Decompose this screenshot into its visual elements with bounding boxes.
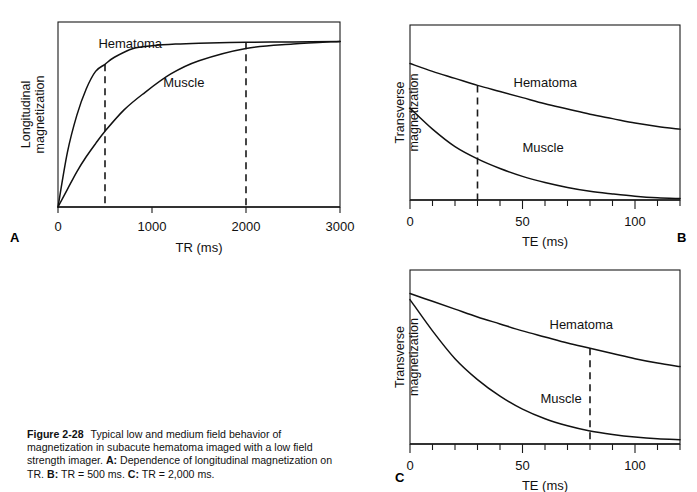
- x-axis-tick-label: 1000: [138, 219, 167, 234]
- y-axis-title-line: magnetization: [407, 318, 421, 396]
- panel-letter-a: A: [10, 230, 19, 245]
- y-axis-title: Transversemagnetization: [393, 74, 421, 152]
- y-axis-title-line: magnetization: [33, 76, 47, 154]
- curve-label-muscle: Muscle: [523, 140, 564, 155]
- y-axis-title-line: Transverse: [393, 326, 407, 388]
- x-axis-tick-label: 3000: [326, 219, 355, 234]
- curve-label-muscle: Muscle: [163, 75, 204, 90]
- chart-panel-c: 050100TE (ms)TransversemagnetizationHema…: [390, 248, 697, 492]
- chart-panel-a: 0100020003000TR (ms)Longitudinalmagnetiz…: [0, 0, 370, 250]
- chart-panel-b: 050100TE (ms)TransversemagnetizationHema…: [390, 0, 697, 250]
- x-axis-tick-label: 0: [54, 219, 61, 234]
- figure-caption: Figure 2-28Typical low and medium field …: [27, 428, 347, 481]
- panel-letter-b: B: [677, 230, 686, 245]
- caption-c-text: TR = 2,000 ms.: [142, 468, 215, 480]
- x-axis-title: TE (ms): [522, 234, 568, 249]
- curve-label-hematoma: Hematoma: [550, 317, 614, 332]
- caption-figure-number: Figure 2-28: [27, 428, 84, 440]
- caption-c-label: C:: [128, 468, 139, 480]
- x-axis-title: TE (ms): [522, 478, 568, 492]
- panel-c-plot: 050100TE (ms)TransversemagnetizationHema…: [390, 248, 697, 492]
- plot-frame: [410, 25, 680, 200]
- curve-hematoma: [410, 293, 680, 366]
- curve-label-hematoma: Hematoma: [514, 75, 578, 90]
- y-axis-title: Longitudinalmagnetization: [19, 76, 47, 154]
- x-axis-tick-label: 100: [624, 214, 646, 229]
- x-axis-tick-label: 0: [406, 214, 413, 229]
- caption-b-label: B:: [47, 468, 58, 480]
- figure-2-28: 0100020003000TR (ms)Longitudinalmagnetiz…: [0, 0, 697, 492]
- curve-label-muscle: Muscle: [541, 391, 582, 406]
- x-axis-tick-label: 50: [515, 214, 529, 229]
- panel-letter-c: C: [395, 470, 404, 485]
- y-axis-title: Transversemagnetization: [393, 318, 421, 396]
- curve-hematoma: [410, 64, 680, 130]
- curve-muscle: [58, 41, 340, 207]
- x-axis-tick-label: 0: [406, 458, 413, 473]
- curve-hematoma: [58, 41, 340, 207]
- y-axis-title-line: Transverse: [393, 81, 407, 143]
- curve-muscle: [410, 300, 680, 440]
- curve-label-hematoma: Hematoma: [98, 36, 162, 51]
- panel-a-plot: 0100020003000TR (ms)Longitudinalmagnetiz…: [0, 0, 370, 250]
- x-axis-title: TR (ms): [176, 240, 223, 255]
- x-axis-tick-label: 2000: [232, 219, 261, 234]
- y-axis-title-line: Longitudinal: [19, 81, 33, 148]
- plot-frame: [410, 270, 680, 444]
- x-axis-tick-label: 50: [515, 458, 529, 473]
- caption-b-text: TR = 500 ms.: [61, 468, 125, 480]
- x-axis-tick-label: 100: [624, 458, 646, 473]
- caption-a-label: A:: [106, 454, 117, 466]
- panel-b-plot: 050100TE (ms)TransversemagnetizationHema…: [390, 0, 697, 250]
